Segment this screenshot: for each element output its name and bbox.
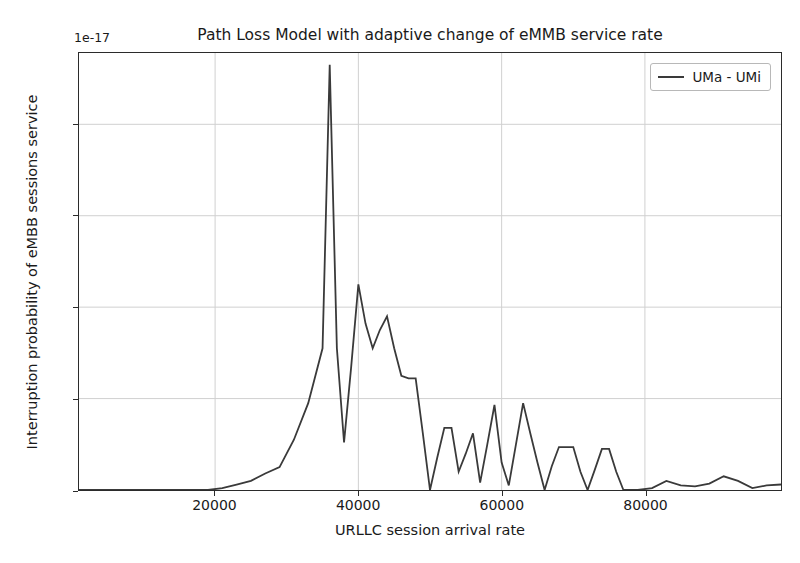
x-tick-label: 60000 (480, 497, 525, 513)
series-line-uma-umi (79, 65, 781, 490)
data-series-group (79, 65, 781, 490)
x-tick-label: 40000 (336, 497, 381, 513)
chart-title: Path Loss Model with adaptive change of … (78, 26, 782, 44)
x-tick-mark (502, 491, 503, 496)
plot-area: UMa - UMi (78, 52, 782, 491)
x-tick-mark (358, 491, 359, 496)
x-tick-mark (646, 491, 647, 496)
y-tick-label-group: 01234 (0, 0, 68, 563)
gridlines (79, 53, 781, 490)
x-tick-label: 80000 (623, 497, 668, 513)
x-axis-label: URLLC session arrival rate (78, 522, 782, 538)
legend-label-uma-umi: UMa - UMi (692, 69, 761, 85)
x-tick-label: 20000 (192, 497, 237, 513)
y-tick-mark (73, 491, 78, 492)
x-tick-mark (214, 491, 215, 496)
chart-figure: 1e-17 Path Loss Model with adaptive chan… (0, 0, 800, 563)
legend-line-swatch (658, 76, 684, 78)
legend[interactable]: UMa - UMi (650, 63, 771, 91)
plot-svg (79, 53, 781, 490)
